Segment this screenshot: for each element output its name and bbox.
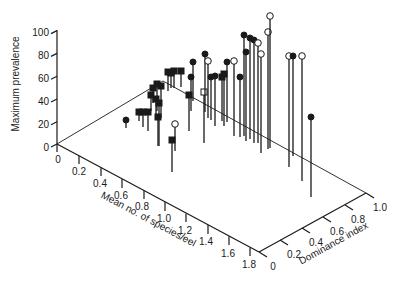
y-tick-labels: 0 0.2 0.4 0.6 0.8 1.0 — [270, 202, 387, 272]
data-point — [251, 37, 257, 143]
filled-circle-marker-icon — [224, 59, 230, 65]
data-point — [169, 137, 175, 172]
x-tick-label: 0.2 — [72, 166, 86, 177]
filled-circle-marker-icon — [237, 74, 243, 80]
filled-square-marker-icon — [169, 137, 175, 143]
x-axis — [57, 144, 259, 256]
data-point — [172, 121, 179, 151]
y-tick-label: 1.0 — [373, 202, 387, 213]
z-tick-label: 100 — [32, 27, 49, 38]
x-tick-label: 1.6 — [221, 248, 235, 259]
data-point — [201, 89, 207, 143]
data-point — [308, 114, 314, 197]
z-axis-label: Maximum prevalence — [10, 36, 21, 131]
filled-circle-marker-icon — [190, 59, 196, 65]
data-point — [123, 117, 129, 128]
filled-circle-marker-icon — [243, 49, 249, 55]
z-axis — [51, 30, 57, 147]
data-point — [178, 68, 184, 87]
filled-square-marker-icon — [186, 92, 192, 98]
y-tick-label: 0 — [270, 261, 276, 272]
open-square-marker-icon — [201, 89, 207, 95]
data-point — [171, 68, 177, 88]
data-point — [237, 74, 243, 137]
filled-square-marker-icon — [171, 68, 177, 74]
open-circle-marker-icon — [205, 58, 212, 65]
filled-circle-marker-icon — [290, 53, 296, 59]
data-stems — [123, 13, 314, 197]
data-point — [286, 53, 293, 167]
filled-square-marker-icon — [221, 71, 227, 77]
open-circle-marker-icon — [267, 13, 274, 20]
data-point — [205, 58, 212, 118]
filled-square-marker-icon — [158, 83, 164, 89]
z-tick-label: 40 — [38, 96, 50, 107]
open-circle-marker-icon — [172, 121, 179, 128]
data-point — [212, 73, 218, 126]
filled-circle-marker-icon — [308, 114, 314, 120]
filled-square-marker-icon — [155, 114, 161, 120]
data-point — [145, 109, 151, 131]
x-tick-label: 1.4 — [199, 236, 213, 247]
z-tick-label: 20 — [38, 119, 50, 130]
data-point — [208, 74, 214, 120]
filled-circle-marker-icon — [123, 117, 129, 123]
z-tick-labels: 0 20 40 60 80 100 — [32, 27, 49, 153]
data-point — [224, 59, 230, 122]
x-tick-label: 1.8 — [242, 259, 256, 270]
open-circle-marker-icon — [299, 53, 306, 60]
open-circle-marker-icon — [258, 51, 265, 58]
stem-plot-3d: 0 20 40 60 80 100 Maximum prevalence 0 0… — [0, 0, 399, 282]
filled-circle-marker-icon — [212, 73, 218, 79]
data-point — [299, 53, 306, 181]
x-tick-label: 0 — [55, 154, 61, 165]
filled-circle-marker-icon — [202, 51, 208, 57]
open-circle-marker-icon — [255, 40, 262, 47]
z-tick-label: 60 — [38, 73, 50, 84]
x-tick-labels: 0 0.2 0.4 0.6 0.8 1.0 1.2 1.4 1.6 1.8 — [55, 154, 256, 270]
filled-circle-marker-icon — [241, 32, 247, 38]
x-tick-label: 0.4 — [93, 178, 107, 189]
data-point — [290, 53, 296, 156]
data-point — [155, 114, 161, 146]
z-tick-label: 80 — [38, 50, 50, 61]
open-circle-marker-icon — [231, 58, 238, 65]
data-point — [258, 51, 265, 153]
data-point — [231, 58, 238, 136]
x-axis-label: Mean no. of species/eel — [99, 189, 197, 248]
z-tick-label: 0 — [43, 142, 49, 153]
filled-square-marker-icon — [145, 109, 151, 115]
data-point — [186, 92, 192, 131]
filled-square-marker-icon — [178, 68, 184, 74]
